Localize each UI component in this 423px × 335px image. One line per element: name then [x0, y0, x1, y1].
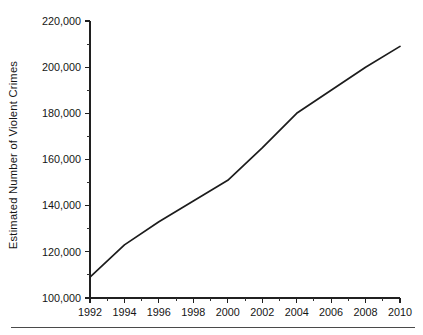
footer-divider [11, 327, 415, 328]
x-axis-tick-label: 1992 [78, 306, 102, 318]
y-axis-tick-label: 140,000 [42, 199, 81, 211]
x-axis-tick-label: 1994 [112, 306, 136, 318]
x-axis-tick-label: 2008 [354, 306, 378, 318]
data-series-line [90, 46, 400, 277]
y-axis-tick-label: 120,000 [42, 246, 81, 258]
x-axis-tick-label: 1996 [147, 306, 171, 318]
y-axis-tick-label: 220,000 [42, 15, 81, 27]
x-axis-tick-label: 2002 [250, 306, 274, 318]
x-axis-tick-label: 2006 [319, 306, 343, 318]
y-axis-tick-label: 180,000 [42, 107, 81, 119]
x-axis-tick-label: 2010 [388, 306, 412, 318]
y-axis-tick-label: 200,000 [42, 61, 81, 73]
y-axis-tick-label: 100,000 [42, 292, 81, 304]
violent-crimes-line-chart: Estimated Number of Violent Crimes 100,0… [0, 0, 423, 335]
x-axis-tick-label: 2004 [285, 306, 309, 318]
chart-plot-area: 100,000120,000140,000160,000180,000200,0… [0, 0, 423, 335]
x-axis-tick-label: 1998 [181, 306, 205, 318]
y-axis-tick-label: 160,000 [42, 153, 81, 165]
x-axis-tick-label: 2000 [216, 306, 240, 318]
